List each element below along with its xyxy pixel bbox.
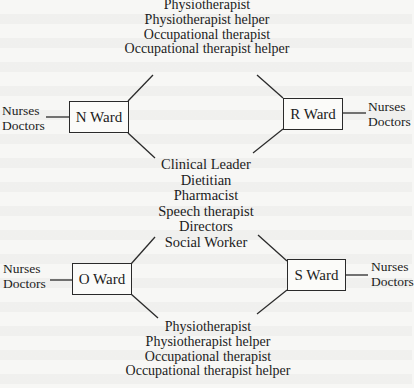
ward-label: O Ward (79, 271, 125, 288)
ward-label: S Ward (295, 267, 339, 284)
s-ward-staff: Nurses Doctors (371, 259, 414, 289)
o-ward-staff: Nurses Doctors (3, 261, 46, 291)
team-member: Occupational therapist helper (108, 364, 308, 379)
team-member: Physiotherapist (107, 0, 307, 13)
team-member: Dietitian (126, 173, 286, 189)
connector-r-center (253, 129, 283, 153)
staff-doctors: Doctors (368, 114, 411, 129)
r-ward-staff: Nurses Doctors (368, 99, 411, 129)
central-team: Clinical Leader Dietitian Pharmacist Spe… (126, 157, 286, 251)
ward-label: R Ward (290, 106, 336, 123)
bottom-therapy-team: Physiotherapist Physiotherapist helper O… (108, 320, 308, 379)
connector-r-top (257, 75, 283, 98)
staff-nurses: Nurses (2, 103, 45, 118)
team-member: Clinical Leader (126, 157, 286, 173)
staff-nurses: Nurses (3, 261, 46, 276)
s-ward-box: S Ward (287, 259, 346, 291)
staff-doctors: Doctors (3, 276, 46, 291)
connector-o-bottom (131, 294, 158, 318)
connector-n-top (128, 75, 153, 101)
team-member: Occupational therapist (108, 350, 308, 365)
staff-nurses: Nurses (368, 99, 411, 114)
team-member: Speech therapist (126, 204, 286, 220)
team-member: Physiotherapist (108, 320, 308, 335)
team-member: Pharmacist (126, 188, 286, 204)
team-member: Social Worker (126, 235, 286, 251)
staff-doctors: Doctors (2, 118, 45, 133)
staff-nurses: Nurses (371, 259, 414, 274)
team-member: Directors (126, 219, 286, 235)
team-member: Physiotherapist helper (107, 13, 307, 28)
team-member: Physiotherapist helper (108, 335, 308, 350)
n-ward-staff: Nurses Doctors (2, 103, 45, 133)
o-ward-box: O Ward (72, 263, 132, 295)
connector-s-bottom (257, 290, 287, 314)
ward-label: N Ward (76, 109, 122, 126)
team-member: Occupational therapist helper (107, 42, 307, 57)
staff-doctors: Doctors (371, 274, 414, 289)
r-ward-box: R Ward (283, 98, 343, 130)
n-ward-box: N Ward (69, 101, 129, 133)
top-therapy-team: Physiotherapist Physiotherapist helper O… (107, 0, 307, 57)
connector-n-center (128, 133, 155, 158)
team-member: Occupational therapist (107, 28, 307, 43)
